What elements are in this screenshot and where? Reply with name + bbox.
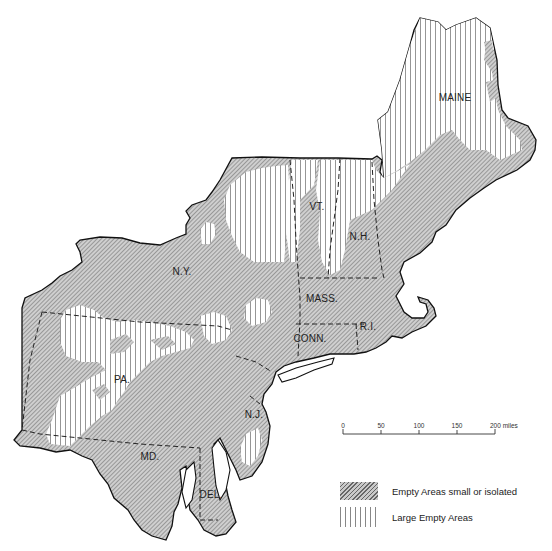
scale-tick-150: 150 [452, 422, 463, 429]
legend-item-small-isolated: Empty Areas small or isolated [340, 478, 550, 504]
vertical-lines-swatch-icon [340, 507, 378, 527]
legend: Empty Areas small or isolated Large Empt… [340, 478, 550, 530]
scale-tick-100: 100 [414, 422, 425, 429]
label-conn: CONN. [293, 333, 326, 344]
label-nh: N.H. [350, 231, 371, 242]
diagonal-hatch-swatch-icon [340, 482, 378, 500]
label-md: MD. [141, 451, 160, 462]
label-pa: PA. [114, 374, 130, 385]
label-nj: N.J. [245, 409, 264, 420]
label-del: DEL. [199, 489, 222, 500]
label-ny: N.Y. [173, 266, 192, 277]
scale-labels: 0 50 100 150 200 miles [341, 422, 518, 429]
label-vt: VT. [309, 201, 324, 212]
legend-label: Empty Areas small or isolated [392, 486, 517, 497]
label-ri: R.I. [360, 321, 376, 332]
label-mass: MASS. [306, 293, 338, 304]
northeast-map: MAINE VT. N.H. N.Y. MASS. CONN. R.I. PA.… [0, 0, 552, 551]
label-maine: MAINE [439, 92, 472, 103]
scale-tick-200: 200 miles [490, 422, 519, 429]
scale-tick-50: 50 [377, 422, 385, 429]
legend-item-large-empty: Large Empty Areas [340, 504, 550, 530]
scale-bar [343, 429, 495, 434]
scale-tick-0: 0 [341, 422, 345, 429]
legend-label: Large Empty Areas [392, 512, 473, 523]
